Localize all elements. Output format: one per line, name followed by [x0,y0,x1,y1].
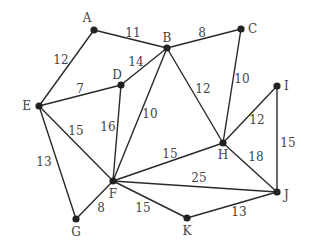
node-label: B [163,31,172,45]
node-label: J [282,188,289,202]
edge-weight-label: 15 [162,147,177,161]
edge-weight-label: 15 [280,136,295,150]
node-label: E [22,99,31,113]
node-label: I [284,79,289,93]
edge-weight-label: 16 [100,120,115,134]
edge-weight-label: 10 [234,72,249,86]
node-a [90,26,97,33]
edge-weight-label: 12 [53,53,68,67]
node-label: H [218,148,228,162]
node-label: G [71,225,81,239]
edge-f-g [76,181,113,219]
edge-weight-label: 10 [142,107,157,121]
edge-weight-label: 12 [249,113,264,127]
edge-weight-label: 12 [195,82,210,96]
node-label: K [183,224,193,238]
edge-weight-label: 18 [248,150,263,164]
node-label: A [82,11,92,25]
node-e [35,102,42,109]
node-h [219,139,226,146]
edge-weight-label: 14 [128,55,144,69]
edge-weight-label: 8 [97,201,105,215]
edge-weight-label: 13 [36,155,51,169]
edge-e-f [39,106,113,181]
node-label: D [112,68,122,82]
edge-weight-label: 25 [191,171,206,185]
edge-weight-label: 15 [135,201,150,215]
edge-weight-label: 8 [198,26,206,40]
node-g [72,215,79,222]
node-c [237,25,244,32]
edge-weight-label: 11 [125,26,140,40]
weighted-graph-diagram: 11128141012107161513815251512181513 ABCD… [0,0,311,244]
edge-weight-label: 15 [68,124,83,138]
node-label: F [109,187,117,201]
node-i [273,82,280,89]
node-d [117,81,124,88]
node-j [273,188,280,195]
node-b [163,44,170,51]
node-f [109,177,116,184]
node-k [183,214,190,221]
edge-weight-label: 7 [76,82,84,96]
node-label: C [248,22,257,36]
edge-weight-label: 13 [231,205,246,219]
